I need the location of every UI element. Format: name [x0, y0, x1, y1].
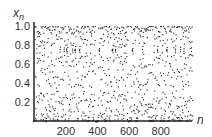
x-ticks: 200400600800: [57, 125, 170, 137]
x-tick-label: 400: [88, 125, 106, 137]
x-axis-label: n: [197, 113, 204, 127]
y-tick-label: 0.8: [15, 39, 30, 51]
y-tick-label: 0.2: [15, 96, 30, 108]
x-tick-label: 600: [120, 125, 138, 137]
y-tick-label: 0.6: [15, 58, 30, 70]
data-points: [35, 26, 194, 122]
y-axis-label: xn: [12, 6, 24, 22]
x-tick-label: 800: [152, 125, 170, 137]
scatter-chart: 0.20.40.60.81.0 200400600800 xn n: [0, 0, 212, 137]
y-ticks: 0.20.40.60.81.0: [15, 20, 30, 108]
x-tick-label: 200: [57, 125, 75, 137]
y-tick-label: 0.4: [15, 77, 30, 89]
